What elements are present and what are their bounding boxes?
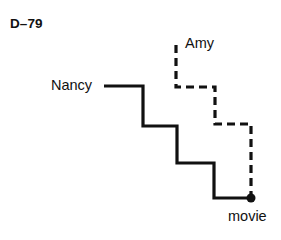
movie-endpoint-dot — [247, 194, 256, 203]
amy-label: Amy — [185, 36, 214, 51]
series-layer — [104, 45, 251, 198]
nancy-label: Nancy — [51, 78, 92, 93]
figure-container: D–79 Nancy Amy movie — [0, 0, 281, 240]
nancy-path — [104, 86, 251, 198]
movie-label: movie — [228, 209, 267, 224]
plate-label: D–79 — [10, 17, 43, 31]
staircase-diagram — [0, 0, 281, 240]
